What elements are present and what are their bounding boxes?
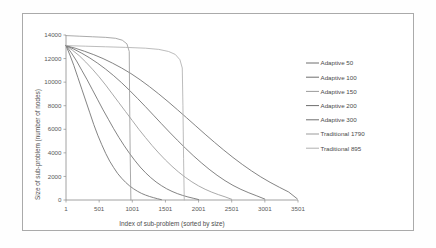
x-tick-label: 2001 [192, 205, 206, 212]
legend-label-4: Adaptive 300 [321, 116, 358, 123]
y-tick-label: 8000 [48, 102, 62, 109]
y-axis-title: Size of sub-problem (number of nodes) [34, 89, 42, 200]
y-tick-label: 4000 [48, 149, 62, 156]
legend-label-5: Traditional 1790 [321, 130, 366, 137]
chart-canvas: 02000400060008000100001200014000 1501100… [0, 0, 436, 248]
y-tick-label: 0 [58, 196, 62, 203]
legend-label-0: Adaptive 50 [321, 59, 354, 66]
x-axis: 1501100115012001250130013501 [64, 200, 305, 212]
x-tick-label: 1001 [125, 205, 139, 212]
x-tick-label: 3501 [291, 205, 305, 212]
series-group [66, 36, 297, 200]
x-axis-title: Index of sub-problem (sorted by size) [119, 220, 225, 228]
y-tick-label: 10000 [44, 78, 62, 85]
series-line-4 [66, 46, 297, 199]
y-tick-label: 12000 [44, 55, 62, 62]
x-tick-label: 1 [64, 205, 68, 212]
x-tick-label: 2501 [225, 205, 239, 212]
y-tick-label: 2000 [48, 173, 62, 180]
legend-label-3: Adaptive 200 [321, 102, 358, 109]
legend-label-2: Adaptive 150 [321, 88, 358, 95]
series-line-1 [66, 46, 199, 200]
y-tick-label: 14000 [44, 31, 62, 38]
legend-label-1: Adaptive 100 [321, 74, 358, 81]
legend: Adaptive 50Adaptive 100Adaptive 150Adapt… [306, 59, 365, 151]
x-tick-label: 1501 [159, 205, 173, 212]
series-line-6 [66, 46, 184, 200]
figure-container: 02000400060008000100001200014000 1501100… [0, 0, 436, 248]
series-line-3 [66, 46, 265, 199]
series-line-0 [66, 46, 161, 200]
legend-label-6: Traditional 895 [321, 145, 362, 152]
y-tick-label: 6000 [48, 125, 62, 132]
x-tick-label: 501 [94, 205, 105, 212]
y-axis: 02000400060008000100001200014000 [44, 31, 66, 203]
x-tick-label: 3001 [258, 205, 272, 212]
